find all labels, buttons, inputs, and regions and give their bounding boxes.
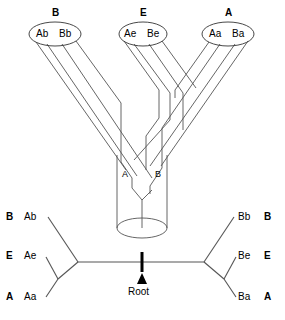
root-label: Root: [128, 287, 149, 297]
lineage-line-b-extra-2: [76, 41, 121, 162]
tip-allele-aa-left: Aa: [24, 292, 36, 302]
branch-ab: [48, 217, 78, 262]
allele-label-ba: Ba: [232, 29, 244, 39]
gene-tree-species-tree-figure: B E A Ab Bb Ae Be Aa Ba A B B Ab E Ae A …: [0, 0, 285, 320]
branch-internal-left: [58, 262, 78, 279]
branch-be: [224, 257, 236, 279]
population-label-a-top: A: [225, 8, 232, 18]
tip-population-e-right: E: [264, 251, 271, 261]
top-panel-lineages: [36, 41, 248, 228]
population-label-e-top: E: [140, 8, 147, 18]
tip-population-b-right: B: [264, 212, 271, 222]
branch-internal-right: [204, 262, 224, 279]
coalescent-join: [132, 188, 152, 200]
lineage-line-b-extra-1: [62, 44, 152, 178]
root-arrow-icon: [137, 273, 147, 284]
tube-lineage-label-a: A: [122, 170, 128, 179]
allele-label-be: Be: [147, 29, 159, 39]
tip-population-e-left: E: [6, 251, 13, 261]
tip-population-a-right: A: [264, 292, 271, 302]
tip-allele-ba-right: Ba: [238, 292, 250, 302]
lineage-line-ae-e: [124, 41, 159, 170]
allele-label-ae: Ae: [124, 29, 136, 39]
figure-canvas: [0, 0, 285, 320]
tube-lineage-label-b: B: [155, 170, 161, 179]
branch-bb: [204, 217, 234, 262]
lineage-line-ab-b: [36, 42, 126, 170]
tip-allele-ae-left: Ae: [24, 251, 36, 261]
allele-label-aa: Aa: [209, 29, 221, 39]
branch-aa: [46, 279, 58, 297]
tip-allele-ab-left: Ab: [24, 212, 36, 222]
lineage-line-be-e: [134, 44, 170, 160]
branch-ba: [224, 279, 236, 297]
lineage-line-a-extra-1: [150, 44, 235, 166]
allele-label-bb: Bb: [59, 29, 71, 39]
allele-label-ab: Ab: [36, 29, 48, 39]
tip-allele-bb-right: Bb: [238, 212, 250, 222]
tip-population-a-left: A: [6, 292, 13, 302]
lineage-line-ba-a: [162, 44, 220, 168]
lineage-line-a-extra-2: [161, 41, 248, 166]
tip-allele-be-right: Be: [238, 251, 250, 261]
branch-ae: [46, 257, 58, 279]
tip-population-b-left: B: [6, 212, 13, 222]
population-label-b-top: B: [52, 8, 59, 18]
lineage-line-e-extra-2: [162, 41, 196, 88]
